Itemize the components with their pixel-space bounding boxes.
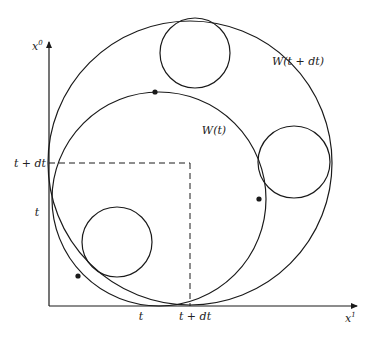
small-circle-bottom-left [82,207,152,277]
inner-circle-w-t [52,92,266,306]
light-cone-diagram: x0 x1 t + dt t t t + dt W(t + dt) W(t) [0,0,371,337]
small-circle-top [160,18,230,88]
vertical-axis-label: x0 [32,39,43,53]
x-tick-t-plus-dt: t + dt [179,310,212,323]
y-tick-t: t [35,206,40,219]
y-tick-t-plus-dt: t + dt [14,157,47,170]
horizontal-axis-label: x1 [345,311,356,325]
x-tick-t: t [139,310,144,323]
point-dot-right [256,196,261,201]
inner-circle-label: W(t) [202,124,226,137]
small-circle-right [258,126,330,198]
outer-circle-label: W(t + dt) [272,55,324,68]
point-dot-top [152,89,157,94]
point-dot-bottom-left [75,273,80,278]
